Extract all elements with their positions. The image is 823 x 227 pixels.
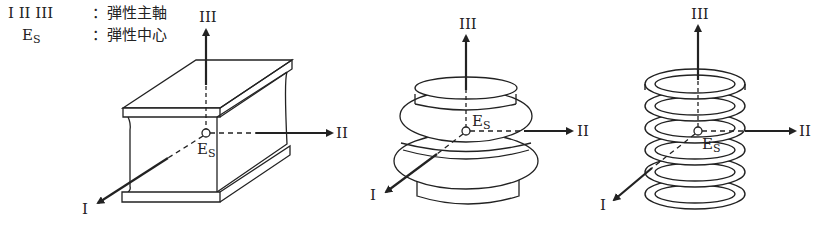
axis-label-II: II	[577, 122, 589, 140]
axis-label-I: I	[600, 196, 606, 214]
elastic-center-label: ES	[197, 140, 216, 160]
rubber-block-figure	[98, 30, 332, 203]
elastic-center-label: ES	[702, 135, 721, 155]
axis-label-II: II	[799, 122, 811, 140]
axis-label-III: III	[459, 15, 477, 33]
axis-label-I: I	[370, 186, 376, 204]
axis-label-I: I	[82, 200, 88, 218]
axis-label-II: II	[336, 124, 348, 142]
diagram-drawing	[0, 0, 823, 227]
elastic-center-label: ES	[472, 112, 491, 132]
coil-spring-figure	[614, 26, 795, 209]
elastic-axes-diagram: I II III ： 弾性主軸 ES ： 弾性中心	[0, 0, 823, 227]
axis-label-III: III	[199, 8, 217, 26]
axis-label-III: III	[691, 5, 709, 23]
